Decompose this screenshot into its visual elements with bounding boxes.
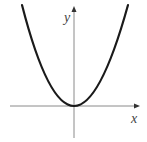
parabola-diagram: y x xyxy=(0,0,147,142)
parabola-curve xyxy=(22,5,128,106)
x-axis-label: x xyxy=(130,111,138,126)
y-axis-arrow-icon xyxy=(72,6,77,12)
y-axis-label: y xyxy=(62,10,71,25)
x-axis-arrow-icon xyxy=(134,104,140,109)
